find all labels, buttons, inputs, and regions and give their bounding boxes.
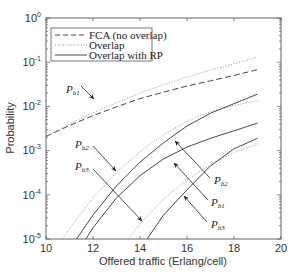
- x-axis-label: Offered traffic (Erlang/cell): [99, 255, 227, 267]
- svg-text:20: 20: [275, 242, 287, 254]
- svg-text:10-3: 10-3: [23, 143, 42, 156]
- svg-text:18: 18: [228, 242, 240, 254]
- y-axis-label: Probability: [4, 102, 16, 154]
- svg-text:12: 12: [87, 242, 99, 254]
- legend: FCA (no overlap) Overlap Overlap with RP: [51, 28, 167, 61]
- svg-text:10-4: 10-4: [23, 188, 42, 201]
- svg-text:10-5: 10-5: [23, 232, 42, 245]
- svg-text:10-2: 10-2: [23, 99, 42, 112]
- svg-text:16: 16: [181, 242, 193, 254]
- svg-text:100: 100: [25, 11, 41, 24]
- svg-text:10-1: 10-1: [23, 55, 42, 68]
- x-tick-labels: 10 12 14 16 18 20: [40, 242, 287, 254]
- chart: 100 10-1 10-2 10-3 10-4 10-5 10 12 14 16…: [0, 0, 299, 277]
- svg-text:14: 14: [134, 242, 146, 254]
- legend-rp: Overlap with RP: [89, 49, 163, 61]
- svg-text:10: 10: [40, 242, 52, 254]
- y-tick-labels: 100 10-1 10-2 10-3 10-4 10-5: [23, 11, 42, 245]
